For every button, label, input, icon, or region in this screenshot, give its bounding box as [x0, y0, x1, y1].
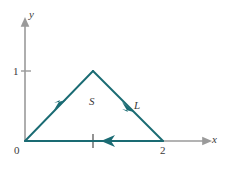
x-axis-label: x	[212, 134, 217, 145]
origin-label: 0	[14, 145, 20, 156]
orientation-arrow-left-leg	[54, 100, 66, 110]
figure-container: y x S L 1 2 0	[0, 0, 232, 170]
region-label-s: S	[89, 96, 95, 107]
y-axis-tick-label-1: 1	[13, 66, 19, 77]
x-axis-tick-label-2: 2	[160, 145, 166, 156]
figure-svg	[0, 0, 232, 170]
curve-label-l: L	[134, 100, 140, 111]
curve-segment-left	[25, 71, 93, 141]
y-axis-label: y	[29, 9, 34, 20]
orientation-arrow-right-leg	[122, 102, 134, 112]
curve-segment-right	[93, 71, 163, 141]
